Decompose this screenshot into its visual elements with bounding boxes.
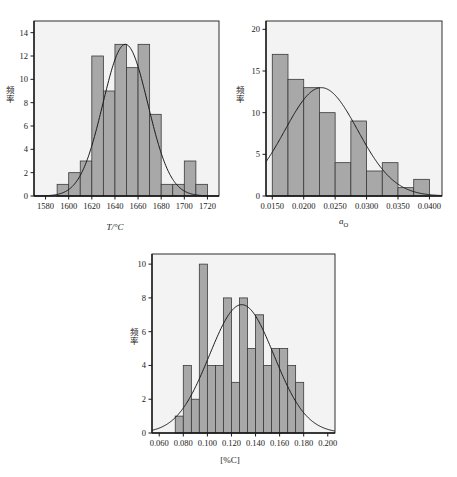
histogram-bar	[256, 315, 264, 433]
histogram-bar	[191, 399, 199, 433]
histogram-bar	[247, 349, 255, 433]
y-axis-tick-label: 20	[252, 24, 261, 34]
histogram-bar	[215, 365, 223, 433]
y-axis-tick-label: 12	[20, 51, 29, 61]
histogram-bar	[240, 298, 248, 433]
x-axis-tick-label: 0.0200	[292, 201, 315, 211]
temperature-y-axis-label: 频率	[4, 86, 13, 104]
histogram-bar	[382, 163, 398, 196]
carbon-histogram-plot: 02468100.0600.0800.1000.1200.1400.1600.1…	[100, 240, 360, 477]
oxygen-x-axis-label: aO	[230, 216, 457, 228]
x-axis-tick-label: 1580	[37, 201, 54, 211]
x-axis-tick-label: 1660	[130, 201, 147, 211]
temperature-x-axis-label: T/°C	[0, 222, 230, 232]
histogram-bar	[196, 184, 208, 196]
histogram-bar	[127, 68, 139, 196]
panel-oxygen-activity: 051015200.01500.02000.02500.03000.03500.…	[230, 0, 457, 240]
histogram-bar	[223, 298, 231, 433]
y-axis-tick-label: 0	[256, 191, 260, 201]
histogram-bar	[80, 161, 92, 196]
x-axis-tick-label: 0.180	[294, 438, 313, 448]
panel-carbon: 02468100.0600.0800.1000.1200.1400.1600.1…	[100, 240, 360, 477]
x-axis-tick-label: 1720	[199, 201, 216, 211]
x-axis-tick-label: 1640	[106, 201, 123, 211]
x-axis-tick-label: 0.100	[198, 438, 217, 448]
histogram-bar	[184, 161, 196, 196]
histogram-bar	[272, 54, 288, 196]
histogram-figure: 0246810121415801600162016401660168017001…	[0, 0, 457, 477]
y-axis-tick-label: 15	[252, 66, 261, 76]
y-axis-tick-label: 5	[256, 149, 260, 159]
y-axis-tick-label: 6	[142, 327, 146, 337]
x-axis-tick-label: 0.0150	[261, 201, 284, 211]
oxygen-y-axis-label: 频率	[234, 86, 243, 104]
histogram-bar	[115, 44, 127, 196]
y-axis-tick-label: 2	[142, 394, 146, 404]
y-axis-tick-label: 8	[142, 293, 146, 303]
x-axis-tick-label: 0.160	[270, 438, 289, 448]
y-axis-tick-label: 14	[20, 28, 29, 38]
carbon-x-axis-label: [%C]	[100, 455, 360, 465]
histogram-bar	[175, 416, 183, 433]
histogram-bar	[199, 264, 207, 433]
x-axis-tick-label: 0.0250	[323, 201, 346, 211]
histogram-bar	[264, 365, 272, 433]
carbon-y-axis-label: 频率	[128, 328, 137, 346]
histogram-bar	[304, 88, 320, 196]
x-axis-tick-label: 1600	[60, 201, 77, 211]
x-axis-tick-label: 0.0350	[386, 201, 409, 211]
x-axis-tick-label: 1680	[153, 201, 170, 211]
y-axis-tick-label: 10	[20, 74, 29, 84]
y-axis-tick-label: 4	[24, 144, 29, 154]
histogram-bar	[183, 365, 191, 433]
y-axis-tick-label: 8	[24, 98, 28, 108]
y-axis-tick-label: 4	[142, 360, 147, 370]
x-axis-tick-label: 1620	[83, 201, 100, 211]
temperature-histogram-plot: 0246810121415801600162016401660168017001…	[0, 0, 230, 240]
histogram-bar	[161, 184, 173, 196]
y-axis-tick-label: 10	[138, 259, 147, 269]
x-axis-tick-label: 0.0400	[418, 201, 441, 211]
histogram-bar	[288, 79, 304, 196]
histogram-bar	[103, 91, 115, 196]
y-axis-tick-label: 0	[142, 428, 146, 438]
y-axis-tick-label: 2	[24, 168, 28, 178]
histogram-bar	[272, 349, 280, 433]
histogram-bar	[280, 349, 288, 433]
x-axis-tick-label: 0.080	[174, 438, 193, 448]
histogram-bar	[231, 382, 239, 433]
y-axis-tick-label: 6	[24, 121, 28, 131]
x-axis-tick-label: 0.060	[150, 438, 169, 448]
oxygen-x-axis-label-subscript: O	[343, 221, 348, 228]
y-axis-tick-label: 0	[24, 191, 28, 201]
x-axis-tick-label: 0.0300	[355, 201, 378, 211]
x-axis-tick-label: 0.200	[318, 438, 337, 448]
x-axis-tick-label: 1700	[176, 201, 193, 211]
histogram-bar	[150, 114, 162, 196]
histogram-bar	[335, 163, 351, 196]
x-axis-tick-label: 0.140	[246, 438, 265, 448]
y-axis-tick-label: 10	[252, 108, 261, 118]
histogram-bar	[367, 171, 383, 196]
histogram-bar	[207, 365, 215, 433]
oxygen-activity-histogram-plot: 051015200.01500.02000.02500.03000.03500.…	[230, 0, 457, 240]
x-axis-tick-label: 0.120	[222, 438, 241, 448]
histogram-bar	[138, 44, 150, 196]
panel-temperature: 0246810121415801600162016401660168017001…	[0, 0, 230, 240]
histogram-bar	[319, 113, 335, 196]
